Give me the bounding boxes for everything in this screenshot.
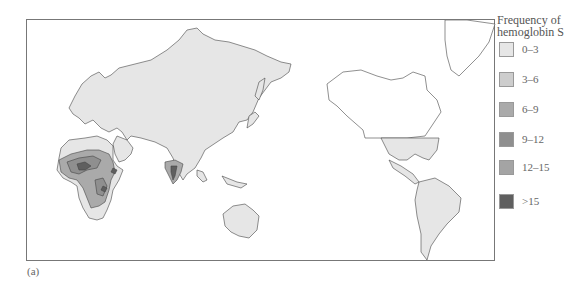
legend-title-line2: hemoglobin S: [497, 26, 583, 38]
legend-item: 12–15: [499, 159, 550, 175]
region-south-america: [415, 178, 461, 260]
legend-swatch: [499, 132, 514, 147]
legend-item: >15: [499, 193, 539, 209]
world-map: [27, 20, 496, 262]
legend-label: 9–12: [522, 133, 544, 145]
region-arabia: [113, 136, 133, 162]
region-usa: [381, 138, 439, 160]
legend-swatch: [499, 194, 514, 209]
legend-swatch: [499, 160, 514, 175]
legend-title: Frequency of hemoglobin S: [497, 14, 583, 38]
legend: Frequency of hemoglobin S 0–3 3–6 6–9 9–…: [497, 14, 583, 38]
legend-item: 3–6: [499, 71, 539, 87]
legend-swatch: [499, 102, 514, 117]
legend-label: 12–15: [522, 161, 550, 173]
region-greenland: [445, 20, 495, 76]
legend-item: 9–12: [499, 131, 544, 147]
region-indonesia: [197, 170, 247, 188]
legend-item: 6–9: [499, 101, 539, 117]
legend-item: 0–3: [499, 41, 539, 57]
legend-label: 3–6: [522, 73, 539, 85]
region-north-america: [327, 70, 441, 138]
region-central-america: [389, 160, 419, 184]
legend-label: 0–3: [522, 43, 539, 55]
legend-label: 6–9: [522, 103, 539, 115]
legend-label: >15: [522, 195, 539, 207]
figure-caption: (a): [27, 265, 39, 277]
map-frame: [26, 19, 495, 261]
legend-swatch: [499, 72, 514, 87]
legend-swatch: [499, 42, 514, 57]
region-australia: [223, 204, 259, 238]
